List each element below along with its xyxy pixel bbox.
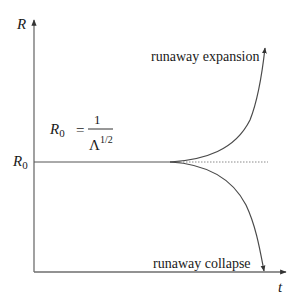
svg-text:1: 1 bbox=[94, 112, 101, 127]
y-axis-label: R bbox=[16, 16, 26, 32]
runaway-expansion-label: runaway expansion bbox=[151, 49, 259, 64]
collapse-curve bbox=[170, 162, 264, 271]
runaway-diagram: R t R0 R0 = 1 Λ1/2 runaway expansion run… bbox=[0, 0, 299, 303]
svg-text:=: = bbox=[76, 122, 84, 138]
svg-text:Λ1/2: Λ1/2 bbox=[89, 134, 113, 153]
r0-equation: R0 = 1 Λ1/2 bbox=[49, 112, 113, 153]
runaway-collapse-label: runaway collapse bbox=[153, 256, 251, 271]
expansion-curve bbox=[170, 48, 265, 162]
r0-tick-label: R0 bbox=[12, 153, 28, 171]
x-axis-label: t bbox=[278, 279, 283, 295]
svg-text:R0: R0 bbox=[49, 121, 65, 139]
